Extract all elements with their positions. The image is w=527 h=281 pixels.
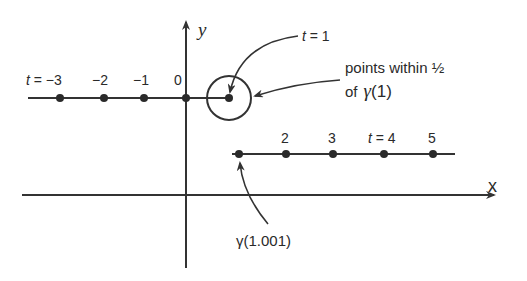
- point-t-minus-3: [56, 94, 64, 102]
- label-t-minus-2: −2: [92, 72, 108, 88]
- label-gamma-1001: γ(1.001): [236, 232, 291, 249]
- label-t-4: t = 4: [368, 130, 396, 146]
- label-t-5: 5: [428, 130, 436, 146]
- arrow-neighborhood: [255, 80, 340, 96]
- arrow-gamma-1001: [240, 163, 268, 224]
- neighborhood-label-line2: ofγ(1): [345, 80, 392, 101]
- point-t-minus-2: [100, 94, 108, 102]
- label-origin: 0: [174, 72, 182, 88]
- label-t-1: t = 1: [302, 28, 330, 44]
- point-t-4: [380, 150, 388, 158]
- point-t-minus-1: [140, 94, 148, 102]
- point-t-0: [182, 94, 190, 102]
- point-t-1: [225, 94, 233, 102]
- arrow-t-1: [230, 36, 298, 92]
- label-t-3: 3: [328, 130, 336, 146]
- y-axis-label: y: [196, 19, 207, 40]
- label-t-minus-3: t = −3: [26, 72, 62, 88]
- path-diagram: y x t = −3 −2 −1 0 t = 1 points within ½…: [0, 0, 527, 281]
- neighborhood-label-line1: points within ½: [345, 59, 445, 76]
- x-axis-label: x: [488, 176, 497, 196]
- point-t-5: [429, 150, 437, 158]
- label-t-minus-1: −1: [133, 72, 149, 88]
- label-t-2: 2: [281, 130, 289, 146]
- point-t-3: [329, 150, 337, 158]
- point-t-1001: [235, 150, 243, 158]
- point-t-2: [282, 150, 290, 158]
